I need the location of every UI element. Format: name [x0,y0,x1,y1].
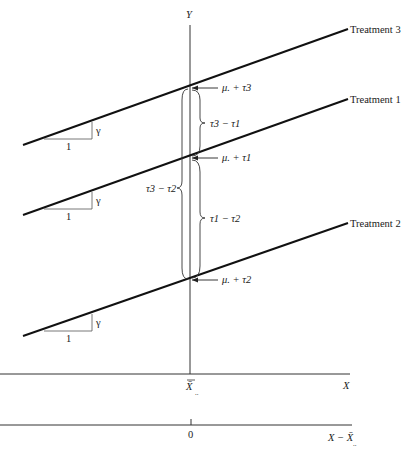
svg-text:X̄: X̄ [185,381,193,392]
treatment-2-line [23,223,348,336]
treatment-1-line [23,99,348,215]
x-axis-label: X [342,380,350,391]
intercept-arrow-treatment-2: μ. + τ2 [192,274,252,285]
svg-text:μ. + τ2: μ. + τ2 [221,274,252,285]
svg-text:μ. + τ3: μ. + τ3 [221,82,251,93]
svg-text:γ: γ [95,317,101,328]
treatment-3-line [23,29,348,145]
svg-text:τ3 − τ1: τ3 − τ1 [210,118,240,129]
treatment-1-label: Treatment 1 [350,94,401,105]
brace-tau3-minus-tau2: τ3 − τ2 [146,89,188,279]
y-axis-label: Y [186,9,193,20]
centered-axis-label: X − X̄ .. [327,432,357,448]
origin-label: 0 [188,429,193,440]
svg-text:..: .. [353,440,357,448]
ancova-diagram: Y X X̄ .. 0 X − X̄ .. Treatment 3 Treatm… [0,0,414,455]
svg-text:γ: γ [95,125,101,136]
brace-tau1-minus-tau2: τ1 − τ2 [192,160,241,278]
intercept-arrow-treatment-1: μ. + τ1 [192,152,251,163]
svg-text:1: 1 [66,333,71,344]
intercept-arrow-treatment-3: μ. + τ3 [192,82,251,93]
svg-text:..: .. [195,389,199,397]
svg-text:γ: γ [95,195,101,206]
svg-text:1: 1 [66,211,71,222]
treatment-3-label: Treatment 3 [350,24,401,35]
svg-text:1: 1 [66,141,71,152]
treatment-2-label: Treatment 2 [350,218,401,229]
svg-text:μ. + τ1: μ. + τ1 [221,152,251,163]
svg-text:X − X̄: X − X̄ [327,432,354,443]
svg-text:τ3 − τ2: τ3 − τ2 [146,183,177,194]
x-mean-label: X̄ .. [185,380,199,397]
svg-text:τ1 − τ2: τ1 − τ2 [210,213,241,224]
